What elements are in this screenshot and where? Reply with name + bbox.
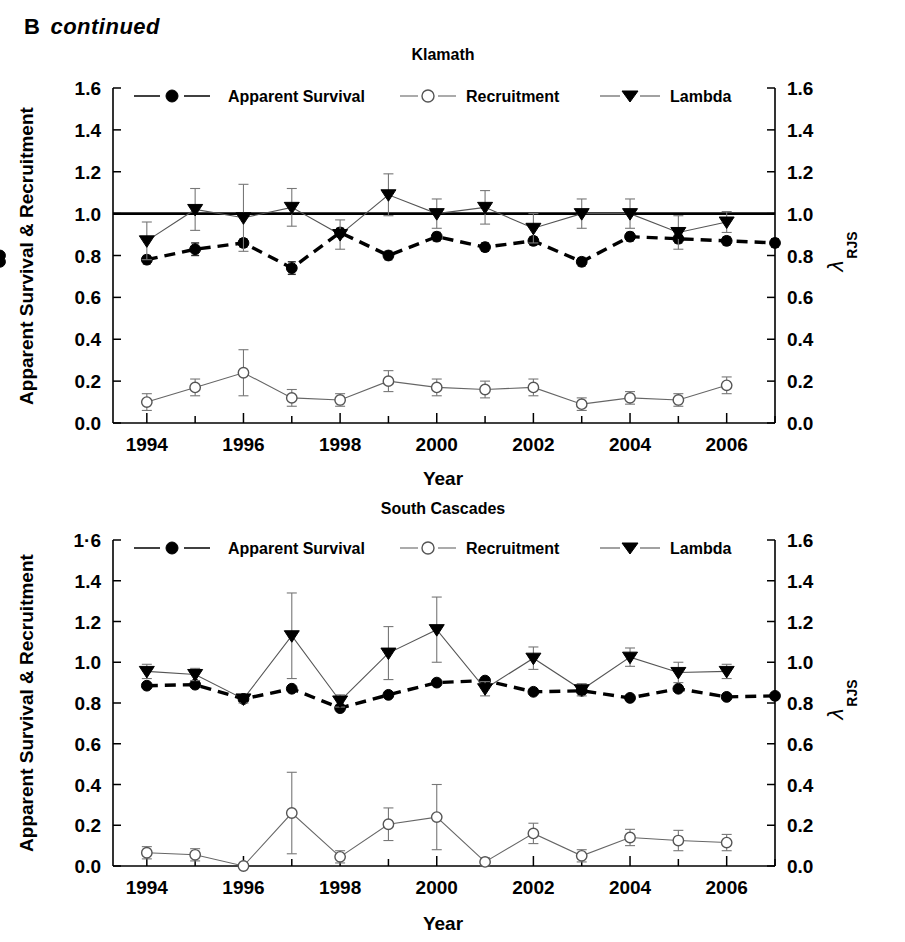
y-tick-label-right: 1.0 xyxy=(787,204,813,225)
y-tick-label-right: 0.8 xyxy=(787,693,813,714)
lambda-subscript: RJS xyxy=(844,231,860,258)
x-tick-label: 2000 xyxy=(416,877,458,898)
y-tick-label-right: 1.4 xyxy=(787,120,814,141)
y-tick-label-right: 0.4 xyxy=(787,775,814,796)
data-point-apparent-survival xyxy=(770,238,781,249)
legend-label-lambda: Lambda xyxy=(670,88,731,105)
data-point-recruitment xyxy=(625,832,635,842)
legend-item-lambda[interactable]: Lambda xyxy=(600,88,731,105)
lambda-subscript: RJS xyxy=(844,679,860,706)
open-circle-icon xyxy=(422,542,434,554)
plot-frame xyxy=(113,540,775,866)
x-tick-label: 1998 xyxy=(319,877,361,898)
filled-triangle-down-icon xyxy=(622,91,638,102)
data-point-recruitment xyxy=(480,857,490,867)
x-tick-label: 1998 xyxy=(319,434,361,455)
data-point-apparent-survival xyxy=(528,686,539,697)
data-point-recruitment xyxy=(625,393,635,403)
data-point-lambda xyxy=(284,631,299,643)
data-point-apparent-survival xyxy=(141,680,152,691)
x-axis-title: Year xyxy=(423,468,464,489)
chart-title: South Cascades xyxy=(381,500,506,517)
data-point-recruitment xyxy=(287,808,297,818)
data-point-lambda xyxy=(236,213,251,225)
data-point-apparent-survival xyxy=(431,677,442,688)
x-tick-label: 2002 xyxy=(512,877,554,898)
series-layer xyxy=(0,174,780,411)
y-tick-label-left: 1.0 xyxy=(75,204,101,225)
data-point-recruitment xyxy=(383,819,393,829)
y-tick-label-left: 1·6 xyxy=(74,530,101,551)
y-axis-left: 0.00.20.40.60.81.01.21.41.6 xyxy=(75,78,121,434)
legend-item-apparent-survival[interactable]: Apparent Survival xyxy=(134,540,365,557)
plot-frame xyxy=(113,88,775,423)
legend-item-recruitment[interactable]: Recruitment xyxy=(400,88,560,105)
data-point-lambda xyxy=(719,666,734,678)
data-point-lambda xyxy=(671,667,686,679)
y-tick-label-right: 1.6 xyxy=(787,78,813,99)
data-point-apparent-survival xyxy=(480,242,491,253)
x-tick-label: 1996 xyxy=(222,877,264,898)
y-tick-label-right: 1.6 xyxy=(787,530,813,551)
data-point-lambda xyxy=(526,223,541,235)
legend-item-lambda[interactable]: Lambda xyxy=(600,540,731,557)
legend-label-recruitment: Recruitment xyxy=(466,540,560,557)
data-point-apparent-survival xyxy=(625,693,636,704)
open-circle-icon xyxy=(422,90,434,102)
chart-south-cascades-svg: South Cascades Apparent Survival Recruit… xyxy=(0,496,905,942)
y-tick-label-left: 0.2 xyxy=(75,815,101,836)
y-tick-label-right: 0.8 xyxy=(787,246,813,267)
data-point-lambda xyxy=(623,652,638,664)
y-tick-label-left: 0.0 xyxy=(75,413,101,434)
data-point-recruitment xyxy=(238,861,248,871)
x-tick-label: 2006 xyxy=(706,434,748,455)
data-point-apparent-survival xyxy=(673,683,684,694)
data-point-apparent-survival xyxy=(576,256,587,267)
y-axis-right-title: λ RJS xyxy=(823,679,860,720)
data-point-recruitment xyxy=(577,851,587,861)
figure-root: Bcontinued Klamath Apparent Survival Rec… xyxy=(0,0,905,942)
x-tick-label: 1996 xyxy=(222,434,264,455)
data-point-apparent-survival xyxy=(286,263,297,274)
y-tick-label-left: 1.0 xyxy=(75,652,101,673)
data-point-recruitment xyxy=(335,395,345,405)
series-layer xyxy=(139,593,780,871)
data-point-recruitment xyxy=(432,382,442,392)
legend-item-apparent-survival[interactable]: Apparent Survival xyxy=(134,88,365,105)
data-point-recruitment xyxy=(721,837,731,847)
filled-circle-icon xyxy=(166,542,178,554)
legend-label-apparent-survival: Apparent Survival xyxy=(228,540,365,557)
data-point-lambda xyxy=(526,653,541,665)
filled-circle-icon xyxy=(166,90,178,102)
y-axis-right: 0.00.20.40.60.81.01.21.41.6 xyxy=(767,78,814,434)
data-point-recruitment xyxy=(287,393,297,403)
x-axis: 1994199619982000200220042006 xyxy=(126,856,775,898)
y-tick-label-left: 0.8 xyxy=(75,693,101,714)
legend-label-apparent-survival: Apparent Survival xyxy=(228,88,365,105)
lambda-symbol: λ xyxy=(823,709,848,721)
y-tick-label-right: 1.4 xyxy=(787,571,814,592)
x-axis: 1994199619982000200220042006 xyxy=(126,413,775,455)
y-tick-label-left: 0.2 xyxy=(75,371,101,392)
data-point-recruitment xyxy=(673,835,683,845)
y-axis-right: 0.00.20.40.60.81.01.21.41.6 xyxy=(767,530,814,877)
y-axis-left-title: Apparent Survival & Recruitment xyxy=(16,553,37,851)
data-point-recruitment xyxy=(142,397,152,407)
chart-south-cascades: South Cascades Apparent Survival Recruit… xyxy=(0,496,905,942)
y-tick-label-left: 1.4 xyxy=(75,120,102,141)
y-tick-label-right: 0.4 xyxy=(787,329,814,350)
legend-item-recruitment[interactable]: Recruitment xyxy=(400,540,560,557)
chart-klamath: Klamath Apparent Survival Recruitment xyxy=(0,40,905,495)
data-point-apparent-survival xyxy=(770,690,781,701)
y-tick-label-left: 1.2 xyxy=(75,162,101,183)
x-axis-title: Year xyxy=(423,913,464,934)
x-tick-label: 2006 xyxy=(706,877,748,898)
y-tick-label-left: 0.8 xyxy=(75,246,101,267)
chart-klamath-svg: Klamath Apparent Survival Recruitment xyxy=(0,40,905,495)
chart-title: Klamath xyxy=(411,46,474,63)
x-tick-label: 2000 xyxy=(416,434,458,455)
data-point-recruitment xyxy=(528,382,538,392)
y-axis-right-title: λ RJS xyxy=(823,231,860,272)
y-tick-label-left: 1.6 xyxy=(75,78,101,99)
y-tick-label-right: 0.2 xyxy=(787,815,813,836)
